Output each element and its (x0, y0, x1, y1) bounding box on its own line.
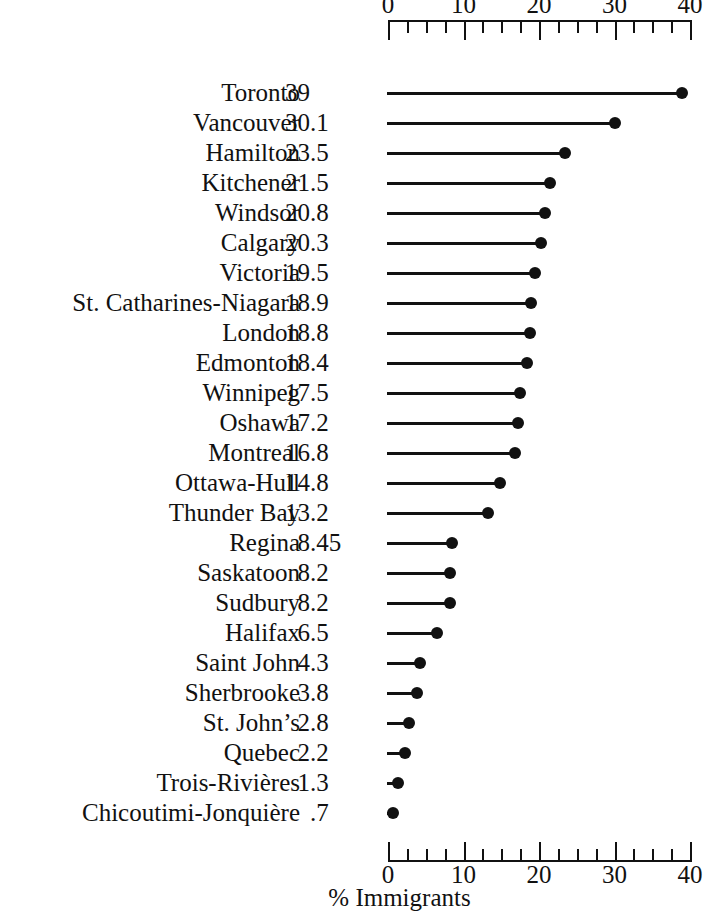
axis-minor-tick (445, 849, 447, 860)
axis-tick-label: 30 (585, 0, 645, 17)
row-value-line (387, 92, 682, 95)
row-value-marker (521, 357, 533, 369)
row-plot (0, 528, 725, 558)
axis-tick-label: 40 (660, 0, 720, 17)
chart-row: Calgary20.3 (0, 228, 725, 258)
row-value-marker (539, 207, 551, 219)
x-axis-title-text: % Immigrants (328, 884, 470, 912)
x-axis-title: % Immigrants (0, 884, 725, 912)
row-value-line (387, 182, 550, 185)
axis-tick-label: 0 (358, 0, 418, 17)
chart-row: Toronto39 (0, 78, 725, 108)
row-value-line (387, 452, 515, 455)
row-plot (0, 258, 725, 288)
chart-row: Trois-Rivières1.3 (0, 768, 725, 798)
axis-minor-tick (577, 849, 579, 860)
row-plot (0, 408, 725, 438)
row-plot (0, 108, 725, 138)
row-value-marker (535, 237, 547, 249)
row-value-marker (676, 87, 688, 99)
axis-tick-label: 20 (509, 0, 569, 17)
chart-row: Hamilton23.5 (0, 138, 725, 168)
chart-row: Halifax6.5 (0, 618, 725, 648)
row-value-line (387, 422, 518, 425)
axis-major-tick (388, 22, 390, 40)
row-value-marker (512, 417, 524, 429)
row-plot (0, 288, 725, 318)
axis-minor-tick (577, 22, 579, 33)
row-value-marker (414, 657, 426, 669)
row-plot (0, 198, 725, 228)
row-value-marker (529, 267, 541, 279)
chart-row: Edmonton18.4 (0, 348, 725, 378)
row-value-marker (444, 567, 456, 579)
axis-minor-tick (596, 22, 598, 33)
row-value-line (387, 212, 545, 215)
axis-minor-tick (520, 849, 522, 860)
axis-minor-tick (482, 22, 484, 33)
row-value-line (387, 602, 450, 605)
chart-row: Vancouver30.1 (0, 108, 725, 138)
row-value-line (387, 242, 541, 245)
row-value-marker (403, 717, 415, 729)
row-plot (0, 168, 725, 198)
row-value-line (387, 392, 520, 395)
row-plot (0, 348, 725, 378)
axis-minor-tick (633, 22, 635, 33)
chart-row: Kitchener21.5 (0, 168, 725, 198)
axis-major-tick (388, 842, 390, 860)
axis-major-tick (690, 842, 692, 860)
row-value-marker (525, 297, 537, 309)
chart-row: Victoria19.5 (0, 258, 725, 288)
row-value-marker (431, 627, 443, 639)
row-value-marker (482, 507, 494, 519)
axis-major-tick (464, 842, 466, 860)
axis-minor-tick (520, 22, 522, 33)
chart-row: Regina8.45 (0, 528, 725, 558)
row-value-marker (514, 387, 526, 399)
chart-row: Sudbury8.2 (0, 588, 725, 618)
row-value-line (387, 272, 535, 275)
axis-minor-tick (426, 849, 428, 860)
row-value-line (387, 152, 565, 155)
chart-row: Winnipeg17.5 (0, 378, 725, 408)
chart-row: Montreal16.8 (0, 438, 725, 468)
row-value-line (387, 482, 500, 485)
row-value-marker (399, 747, 411, 759)
row-plot (0, 558, 725, 588)
row-value-marker (544, 177, 556, 189)
bottom-axis: 010203040 (0, 838, 725, 890)
axis-tick-label: 10 (434, 0, 494, 17)
row-plot (0, 228, 725, 258)
axis-minor-tick (426, 22, 428, 33)
chart-row: St. John’s2.8 (0, 708, 725, 738)
chart-row: St. Catharines-Niagara18.9 (0, 288, 725, 318)
row-plot (0, 468, 725, 498)
row-plot (0, 318, 725, 348)
row-value-marker (392, 777, 404, 789)
chart-row: Quebec2.2 (0, 738, 725, 768)
row-plot (0, 378, 725, 408)
axis-major-tick (464, 22, 466, 40)
chart-row: Chicoutimi-Jonquière.7 (0, 798, 725, 828)
axis-minor-tick (445, 22, 447, 33)
axis-major-tick (539, 842, 541, 860)
axis-minor-tick (407, 849, 409, 860)
chart-rows: Toronto39Vancouver30.1Hamilton23.5Kitche… (0, 78, 725, 828)
row-value-marker (446, 537, 458, 549)
row-plot (0, 648, 725, 678)
row-value-line (387, 332, 530, 335)
axis-minor-tick (596, 849, 598, 860)
chart-row: Windsor20.8 (0, 198, 725, 228)
row-value-marker (524, 327, 536, 339)
chart-row: Oshawa17.2 (0, 408, 725, 438)
axis-minor-tick (671, 22, 673, 33)
chart-row: Ottawa-Hull14.8 (0, 468, 725, 498)
axis-minor-tick (671, 849, 673, 860)
row-value-line (387, 542, 452, 545)
axis-minor-tick (652, 849, 654, 860)
row-value-marker (411, 687, 423, 699)
chart-row: Saint John4.3 (0, 648, 725, 678)
axis-minor-tick (633, 849, 635, 860)
row-value-line (387, 302, 531, 305)
